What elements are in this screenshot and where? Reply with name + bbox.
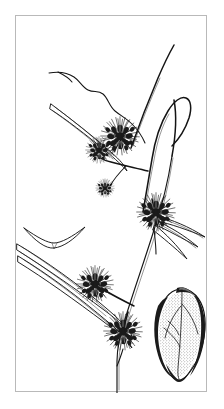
botanical-illustration	[16, 16, 208, 393]
branch-upper	[131, 45, 174, 148]
scale-detail	[24, 227, 85, 249]
flower-head-mid-right	[137, 193, 176, 231]
illustration-frame	[15, 15, 207, 392]
achene-detail	[154, 287, 205, 382]
flower-head-mid-small	[96, 179, 114, 197]
flower-head-lower-centre	[104, 312, 143, 350]
figure-root	[0, 0, 224, 409]
branch-arching-right	[143, 98, 191, 212]
twig-zigzag-upper-left	[49, 72, 145, 143]
